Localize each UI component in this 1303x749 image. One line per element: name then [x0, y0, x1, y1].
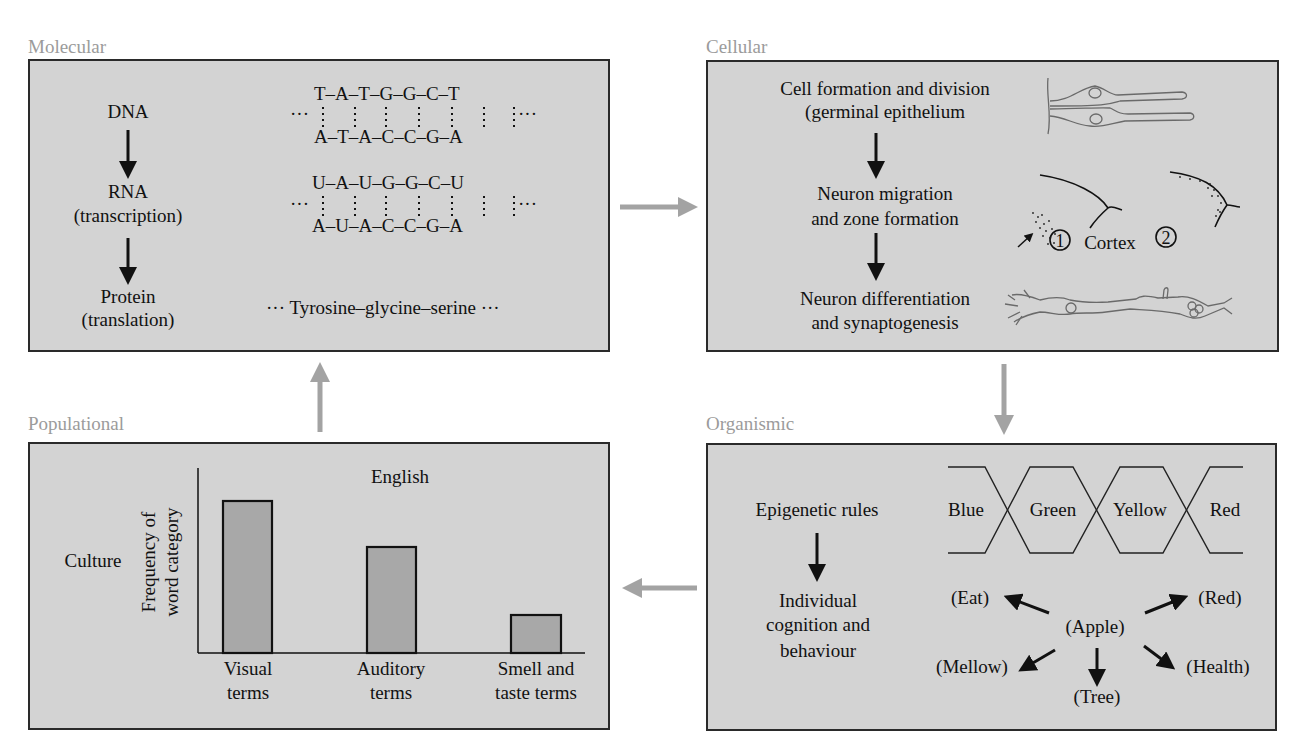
- dna-bottom-strand: A–T–A–C–C–G–A: [314, 126, 463, 148]
- y-axis-label-line1: Frequency of: [138, 477, 160, 647]
- rna-bottom-strand: A–U–A–C–C–G–A: [312, 215, 463, 237]
- protein-label: Protein: [48, 286, 208, 308]
- y-axis-label-line2: word category: [161, 477, 183, 647]
- x-label-auditory-1: Auditory: [336, 658, 446, 680]
- label-molecular: Molecular: [28, 36, 106, 58]
- node-tree: (Tree): [1062, 686, 1132, 708]
- rna-top-strand: U–A–U–G–G–C–U: [312, 172, 464, 194]
- x-label-smell-2: taste terms: [476, 682, 596, 704]
- node-health: (Health): [1168, 656, 1268, 678]
- epigenetic-rules-label: Epigenetic rules: [722, 499, 912, 521]
- label-organismic: Organismic: [706, 413, 794, 435]
- cortex-label: Cortex: [1070, 232, 1150, 254]
- outcome-line3: behaviour: [738, 640, 898, 662]
- neuron-migration-line1: Neuron migration: [730, 183, 1040, 205]
- node-apple: (Apple): [1050, 616, 1140, 638]
- zone-marker-2: 2: [1153, 227, 1179, 249]
- x-label-visual-1: Visual: [198, 658, 298, 680]
- dna-top-strand: T–A–T–G–G–C–T: [314, 83, 460, 105]
- dna-label: DNA: [68, 101, 188, 123]
- node-mellow: (Mellow): [922, 656, 1022, 678]
- zone-marker-1: 1: [1047, 230, 1073, 252]
- outcome-line2: cognition and: [738, 614, 898, 636]
- x-label-visual-2: terms: [198, 682, 298, 704]
- color-red: Red: [1195, 499, 1255, 521]
- translation-label: (translation): [38, 309, 218, 331]
- protein-chain: ··· Tyrosine–glycine–serine ···: [266, 297, 500, 319]
- rna-label: RNA: [48, 181, 208, 203]
- label-cellular: Cellular: [706, 36, 767, 58]
- dna-ellipsis-right: ···: [518, 103, 537, 125]
- color-yellow: Yellow: [1100, 499, 1180, 521]
- color-blue: Blue: [936, 499, 996, 521]
- outcome-line1: Individual: [738, 590, 898, 612]
- node-red: (Red): [1185, 587, 1255, 609]
- cell-formation-line1: Cell formation and division: [730, 78, 1040, 100]
- dna-ellipsis-left: ···: [290, 103, 309, 125]
- chart-title: English: [345, 466, 455, 488]
- transcription-label: (transcription): [38, 205, 218, 227]
- culture-label: Culture: [48, 550, 138, 572]
- color-green: Green: [1013, 499, 1093, 521]
- cell-formation-line2: (germinal epithelium: [730, 101, 1040, 123]
- x-label-smell-1: Smell and: [476, 658, 596, 680]
- neuron-diff-line2: and synaptogenesis: [730, 312, 1040, 334]
- rna-ellipsis-right: ···: [518, 193, 537, 215]
- neuron-migration-line2: and zone formation: [730, 208, 1040, 230]
- rna-ellipsis-left: ···: [290, 193, 309, 215]
- neuron-diff-line1: Neuron differentiation: [730, 288, 1040, 310]
- node-eat: (Eat): [935, 587, 1005, 609]
- label-populational: Populational: [28, 413, 124, 435]
- x-label-auditory-2: terms: [336, 682, 446, 704]
